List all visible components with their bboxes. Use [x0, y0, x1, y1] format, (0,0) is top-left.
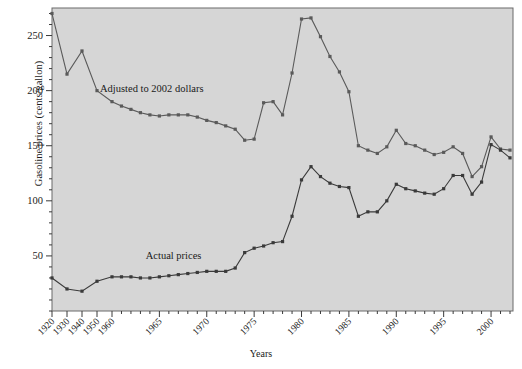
data-point	[395, 183, 398, 186]
data-point	[480, 180, 483, 183]
series-annotation-actual: Actual prices	[146, 250, 202, 261]
y-axis-ticks: 50100150200250	[27, 14, 52, 311]
data-point	[281, 113, 284, 116]
data-point	[328, 182, 331, 185]
data-point	[347, 90, 350, 93]
x-tick-label: 2000	[475, 316, 496, 337]
data-point	[215, 270, 218, 273]
y-tick-label: 200	[27, 85, 43, 96]
data-point	[110, 275, 113, 278]
data-point	[224, 270, 227, 273]
plot-area-background	[52, 8, 513, 311]
data-point	[129, 275, 132, 278]
y-tick-label: 150	[27, 140, 43, 151]
data-point	[414, 144, 417, 147]
data-point	[272, 100, 275, 103]
data-point	[65, 287, 68, 290]
data-point	[253, 138, 256, 141]
data-point	[376, 210, 379, 213]
data-point	[442, 187, 445, 190]
data-point	[95, 280, 98, 283]
data-point	[452, 174, 455, 177]
data-point	[404, 187, 407, 190]
x-tick-label: 1980	[285, 316, 306, 337]
x-tick-label: 1990	[380, 316, 401, 337]
chart-canvas: 50100150200250 1920193019401950196019651…	[0, 0, 522, 369]
data-point	[262, 101, 265, 104]
data-point	[196, 271, 199, 274]
data-point	[423, 192, 426, 195]
data-point	[347, 186, 350, 189]
data-point	[253, 247, 256, 250]
x-tick-label: 1965	[143, 316, 164, 337]
data-point	[471, 175, 474, 178]
y-tick-label: 250	[27, 30, 43, 41]
data-point	[461, 174, 464, 177]
data-point	[177, 113, 180, 116]
data-point	[395, 129, 398, 132]
data-point	[139, 111, 142, 114]
y-tick-label: 50	[33, 250, 44, 261]
data-point	[167, 113, 170, 116]
data-point	[110, 100, 113, 103]
data-point	[433, 153, 436, 156]
data-point	[148, 113, 151, 116]
data-point	[234, 128, 237, 131]
data-point	[196, 115, 199, 118]
y-tick-label: 100	[27, 195, 43, 206]
data-point	[80, 49, 83, 52]
x-tick-label: 1985	[333, 316, 354, 337]
data-point	[50, 276, 53, 279]
data-point	[120, 275, 123, 278]
x-axis-ticks: 1920193019401950196019651970197519801985…	[36, 311, 510, 337]
data-point	[471, 193, 474, 196]
data-point	[262, 244, 265, 247]
data-point	[120, 104, 123, 107]
data-point	[414, 189, 417, 192]
data-point	[158, 275, 161, 278]
data-point	[300, 178, 303, 181]
data-point	[205, 270, 208, 273]
data-point	[338, 70, 341, 73]
data-point	[508, 149, 511, 152]
data-point	[50, 12, 53, 15]
data-point	[357, 144, 360, 147]
data-point	[234, 266, 237, 269]
data-point	[357, 215, 360, 218]
data-point	[338, 185, 341, 188]
data-point	[366, 149, 369, 152]
data-point	[319, 35, 322, 38]
data-point	[385, 199, 388, 202]
data-point	[480, 165, 483, 168]
data-point	[433, 193, 436, 196]
data-point	[243, 139, 246, 142]
data-point	[186, 113, 189, 116]
data-point	[309, 165, 312, 168]
data-point	[309, 16, 312, 19]
data-point	[167, 274, 170, 277]
data-point	[376, 152, 379, 155]
data-point	[139, 276, 142, 279]
gasoline-price-chart-figure: Gasoline prices (cents/gallon) Years 501…	[0, 0, 522, 369]
data-point	[489, 135, 492, 138]
data-point	[328, 55, 331, 58]
data-point	[215, 121, 218, 124]
data-point	[95, 89, 98, 92]
data-point	[319, 175, 322, 178]
data-point	[300, 17, 303, 20]
data-point	[158, 114, 161, 117]
x-tick-label: 1975	[238, 316, 259, 337]
data-point	[366, 210, 369, 213]
x-tick-label: 1970	[191, 316, 212, 337]
series-annotation-adjusted: Adjusted to 2002 dollars	[100, 83, 204, 94]
data-point	[489, 143, 492, 146]
data-point	[80, 290, 83, 293]
data-point	[129, 108, 132, 111]
data-point	[423, 149, 426, 152]
data-point	[65, 73, 68, 76]
data-point	[461, 152, 464, 155]
data-point	[272, 241, 275, 244]
data-point	[224, 124, 227, 127]
data-point	[385, 145, 388, 148]
data-point	[205, 119, 208, 122]
